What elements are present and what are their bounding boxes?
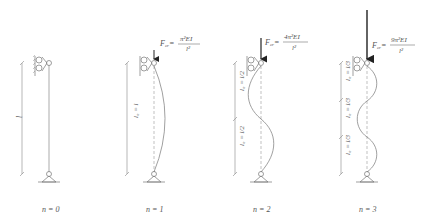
svg-text:Fcr=: Fcr= [371,41,386,50]
dimension-line [233,61,237,176]
pin-support-icon [38,172,60,183]
caption-n2: n = 2 [253,205,270,214]
dimension-line [125,61,129,176]
panel-n1: l₀ = l Fcr= π²EI l² n = 1 [125,35,200,214]
caption-n0: n = 0 [42,205,59,214]
panel-n3: l₀ = l/3 l₀ = l/3 l₀ = l/3 Fcr= 9π²EI l²… [339,10,415,214]
panel-n0: l n = 0 [15,55,60,214]
length-label: l [15,115,24,118]
svg-text:π²EI: π²EI [180,35,193,43]
length-label: l₀ = l/3 [344,98,352,118]
svg-text:l²: l² [399,47,404,55]
dimension-line [339,61,343,176]
svg-text:l²: l² [292,44,297,52]
length-label: l₀ = l/3 [344,135,352,155]
svg-text:4π²EI: 4π²EI [284,33,300,41]
svg-text:Fcr=: Fcr= [264,38,279,47]
caption-n3: n = 3 [359,205,376,214]
caption-n1: n = 1 [146,205,163,214]
critical-load-formula: Fcr= 4π²EI l² [264,33,308,52]
pin-support-icon [143,172,165,183]
length-label: l₀ = l/2 [238,126,246,146]
length-label: l₀ = l [132,103,140,118]
panel-n2: l₀ = l/2 l₀ = l/2 Fcr= 4π²EI l² n = 2 [233,33,308,214]
length-label: l₀ = l/2 [238,71,246,91]
svg-text:Fcr=: Fcr= [159,39,174,48]
svg-text:9π²EI: 9π²EI [391,36,407,44]
pin-support-icon [356,172,378,183]
critical-load-formula: Fcr= π²EI l² [159,35,200,53]
buckling-diagram: l n = 0 l₀ = l Fcr= π²EI l² n = 1 [0,0,426,224]
length-label: l₀ = l/3 [344,61,352,81]
pin-support-icon [250,172,272,183]
buckled-shape [154,66,165,172]
svg-text:l²: l² [186,45,191,53]
critical-load-formula: Fcr= 9π²EI l² [371,36,415,55]
